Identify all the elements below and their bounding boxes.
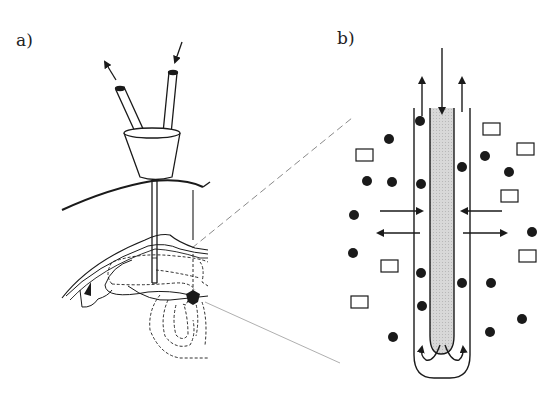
- probe-shaft: [152, 180, 157, 283]
- probe-hub: [124, 128, 180, 180]
- figure: a) b): [0, 0, 556, 399]
- probe-assembly: [105, 42, 182, 283]
- inner-cannula: [430, 108, 454, 354]
- inlet-tube: [163, 42, 182, 134]
- brain-section: [62, 180, 210, 358]
- zoom-guide-lines: [192, 118, 352, 363]
- outlet-tube: [105, 62, 144, 134]
- diagram-canvas: [0, 0, 556, 399]
